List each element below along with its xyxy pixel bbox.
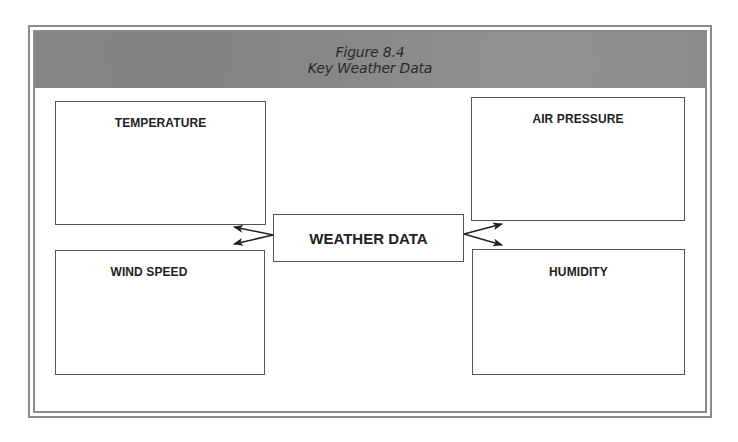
connector-arrows <box>0 0 738 442</box>
arrow-to-temperature-icon <box>234 227 273 235</box>
arrow-to-humidity-icon <box>464 234 502 245</box>
arrow-to-wind-speed-icon <box>234 235 273 244</box>
arrow-to-air-pressure-icon <box>464 224 502 234</box>
